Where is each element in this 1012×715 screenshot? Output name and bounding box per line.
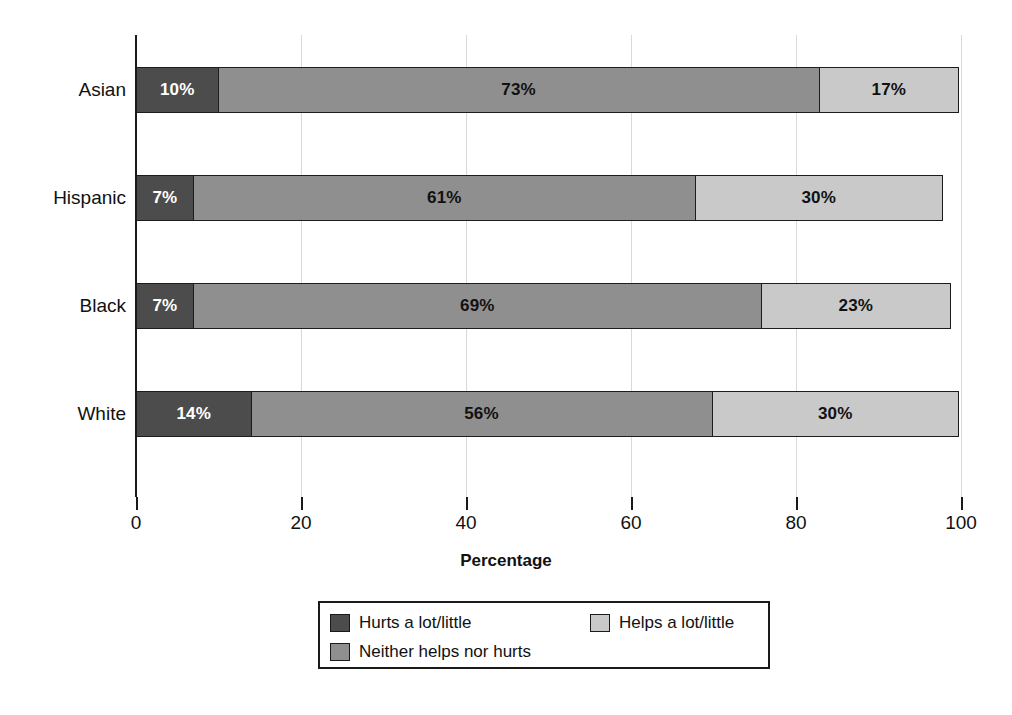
category-label-hispanic: Hispanic	[6, 175, 126, 221]
bar-segment: 61%	[193, 175, 696, 221]
tick-mark-0	[136, 497, 138, 510]
bar-row: 7%61%30%	[136, 175, 961, 221]
legend-swatch-icon	[330, 643, 350, 661]
x-tick-label-0: 0	[131, 512, 142, 534]
plot-area: 10%73%17%7%61%30%7%69%23%14%56%30%	[136, 35, 961, 497]
legend-entry: Neither helps nor hurts	[330, 642, 590, 662]
legend-swatch-icon	[590, 614, 610, 632]
tick-mark-40	[466, 497, 468, 510]
legend-label: Hurts a lot/little	[359, 613, 471, 633]
y-axis-line	[135, 35, 137, 497]
x-tick-label-80: 80	[785, 512, 806, 534]
y-axis-category-labels: AsianHispanicBlackWhite	[0, 35, 126, 497]
bar-segment: 14%	[136, 391, 252, 437]
bar-segment: 17%	[819, 67, 959, 113]
bar-segment: 69%	[193, 283, 762, 329]
legend-entry: Hurts a lot/little	[330, 613, 590, 633]
bar-row: 14%56%30%	[136, 391, 961, 437]
bar-segment: 30%	[695, 175, 943, 221]
tick-mark-100	[961, 497, 963, 510]
tick-mark-60	[631, 497, 633, 510]
bar-segment: 10%	[136, 67, 219, 113]
legend-label: Helps a lot/little	[619, 613, 734, 633]
category-label-white: White	[6, 391, 126, 437]
tick-mark-80	[796, 497, 798, 510]
x-tick-label-20: 20	[290, 512, 311, 534]
legend-swatch-icon	[330, 614, 350, 632]
bar-segment: 56%	[251, 391, 713, 437]
legend-label: Neither helps nor hurts	[359, 642, 531, 662]
x-tick-label-60: 60	[620, 512, 641, 534]
gridline-100	[961, 35, 962, 497]
bar-segment: 73%	[218, 67, 820, 113]
x-axis-title: Percentage	[0, 551, 1012, 571]
stacked-bar-chart: 10%73%17%7%61%30%7%69%23%14%56%30% Asian…	[0, 0, 1012, 715]
x-tick-label-40: 40	[455, 512, 476, 534]
bar-row: 7%69%23%	[136, 283, 961, 329]
bar-segment: 23%	[761, 283, 951, 329]
category-label-black: Black	[6, 283, 126, 329]
bar-row: 10%73%17%	[136, 67, 961, 113]
legend-entry: Helps a lot/little	[590, 613, 758, 633]
bar-segment: 30%	[712, 391, 960, 437]
chart-legend: Hurts a lot/littleHelps a lot/littleNeit…	[318, 601, 770, 669]
x-tick-label-100: 100	[945, 512, 977, 534]
bar-segment: 7%	[136, 283, 194, 329]
category-label-asian: Asian	[6, 67, 126, 113]
tick-mark-20	[301, 497, 303, 510]
bar-segment: 7%	[136, 175, 194, 221]
